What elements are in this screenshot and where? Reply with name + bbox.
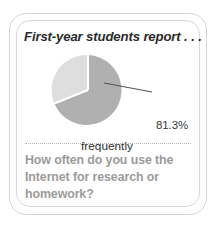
infographic-card: First-year students report . . . 81.3% f… — [0, 0, 218, 227]
dotted-divider — [25, 143, 191, 144]
pie-chart: 81.3% frequently — [16, 46, 200, 138]
pie-value-label-frequently: 81.3% — [156, 119, 188, 131]
pie-slice-label-frequently: frequently — [69, 139, 145, 153]
page-title: First-year students report . . . — [24, 29, 202, 44]
survey-question-text: How often do you use the Internet for re… — [25, 152, 195, 203]
